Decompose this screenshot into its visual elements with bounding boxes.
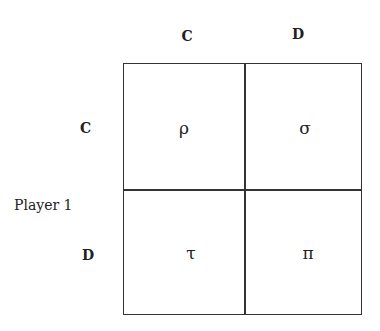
payoff-cc: ρ xyxy=(179,118,189,138)
payoff-dd: π xyxy=(302,243,313,263)
row-label-c: C xyxy=(80,120,91,136)
row-player-label: Player 1 xyxy=(14,197,73,213)
column-label-d: D xyxy=(292,26,304,42)
row-label-d: D xyxy=(82,247,94,263)
payoff-dc: τ xyxy=(186,243,195,263)
payoff-cd: σ xyxy=(299,118,311,138)
column-label-c: C xyxy=(181,28,192,44)
matrix-horizontal-divider xyxy=(123,189,362,191)
